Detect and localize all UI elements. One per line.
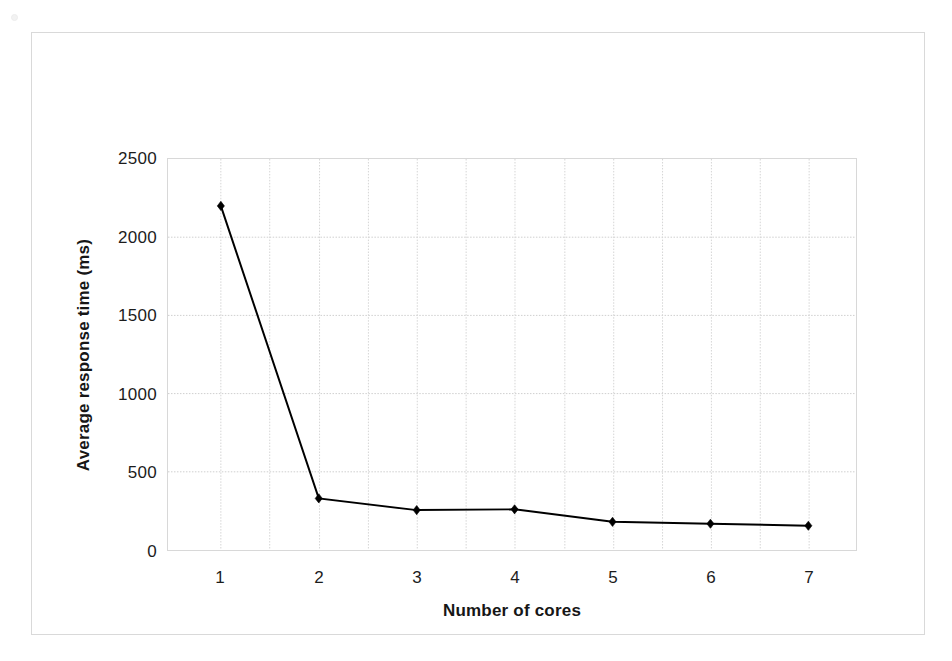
data-point-marker (413, 506, 420, 515)
y-tick-label: 500 (128, 464, 157, 481)
data-point-marker (217, 201, 224, 210)
data-point-marker (511, 505, 518, 514)
y-tick-label: 1500 (118, 307, 157, 324)
x-tick-label: 5 (593, 569, 633, 586)
series-line (221, 206, 808, 526)
x-tick-label: 4 (495, 569, 535, 586)
chart-outer-frame: Average response time (ms) 2500 2000 150… (31, 32, 925, 635)
y-tick-label: 2500 (118, 150, 157, 167)
y-tick-label: 0 (147, 543, 157, 560)
x-tick-label: 2 (299, 569, 339, 586)
chart-screenshot: Average response time (ms) 2500 2000 150… (0, 0, 952, 661)
x-tick-label: 3 (397, 569, 437, 586)
x-tick-label: 6 (691, 569, 731, 586)
x-tick-label: 7 (789, 569, 829, 586)
data-point-marker (805, 521, 812, 530)
data-series-layer (168, 159, 856, 550)
y-tick-label: 1000 (118, 386, 157, 403)
x-axis-title: Number of cores (167, 601, 857, 621)
data-point-marker (315, 494, 322, 503)
y-axis-tick-labels: 2500 2000 1500 1000 500 0 (87, 33, 157, 636)
image-artifact-speck (11, 14, 18, 21)
plot-area (167, 158, 857, 551)
data-point-marker (707, 519, 714, 528)
x-tick-label: 1 (200, 569, 240, 586)
y-tick-label: 2000 (118, 229, 157, 246)
data-point-marker (609, 517, 616, 526)
